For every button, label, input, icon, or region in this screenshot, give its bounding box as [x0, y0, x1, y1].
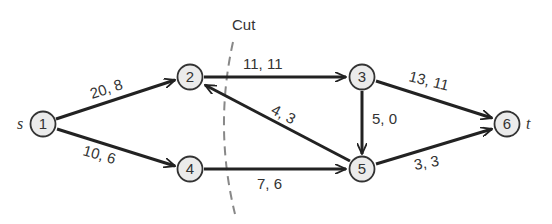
svg-text:6: 6 — [503, 115, 511, 132]
node-6: 6 — [495, 112, 520, 137]
node-4: 4 — [178, 157, 203, 182]
source-label: s — [17, 115, 23, 132]
edge-1-2: 20, 8 — [56, 75, 175, 119]
edge-label-4-5: 7, 6 — [257, 175, 282, 192]
cut-label: Cut — [232, 16, 256, 33]
edge-label-3-6: 13, 11 — [407, 67, 451, 93]
edge-3-5: 5, 0 — [362, 91, 397, 154]
edge-5-2: 4, 3 — [205, 85, 350, 161]
svg-text:1: 1 — [39, 115, 47, 132]
svg-text:3: 3 — [358, 68, 366, 85]
flow-network-diagram: Cut 20, 8 10, 6 11, 11 4, 3 7, 6 5, 0 13… — [0, 0, 552, 224]
node-3: 3 — [350, 65, 375, 90]
node-2: 2 — [178, 65, 203, 90]
edge-label-2-3: 11, 11 — [243, 55, 282, 72]
sink-label: t — [526, 115, 531, 132]
edge-1-4: 10, 6 — [57, 129, 175, 167]
edge-label-5-6: 3, 3 — [413, 152, 441, 173]
svg-text:5: 5 — [358, 160, 366, 177]
edge-5-6: 3, 3 — [376, 129, 492, 173]
edge-label-3-5: 5, 0 — [372, 110, 397, 127]
node-5: 5 — [350, 157, 375, 182]
cut-line — [224, 42, 235, 214]
edge-4-5: 7, 6 — [204, 169, 346, 192]
edge-label-5-2: 4, 3 — [269, 101, 299, 128]
svg-text:2: 2 — [186, 68, 194, 85]
node-1: 1 — [31, 112, 56, 137]
svg-text:4: 4 — [186, 160, 194, 177]
edge-2-3: 11, 11 — [204, 55, 346, 77]
